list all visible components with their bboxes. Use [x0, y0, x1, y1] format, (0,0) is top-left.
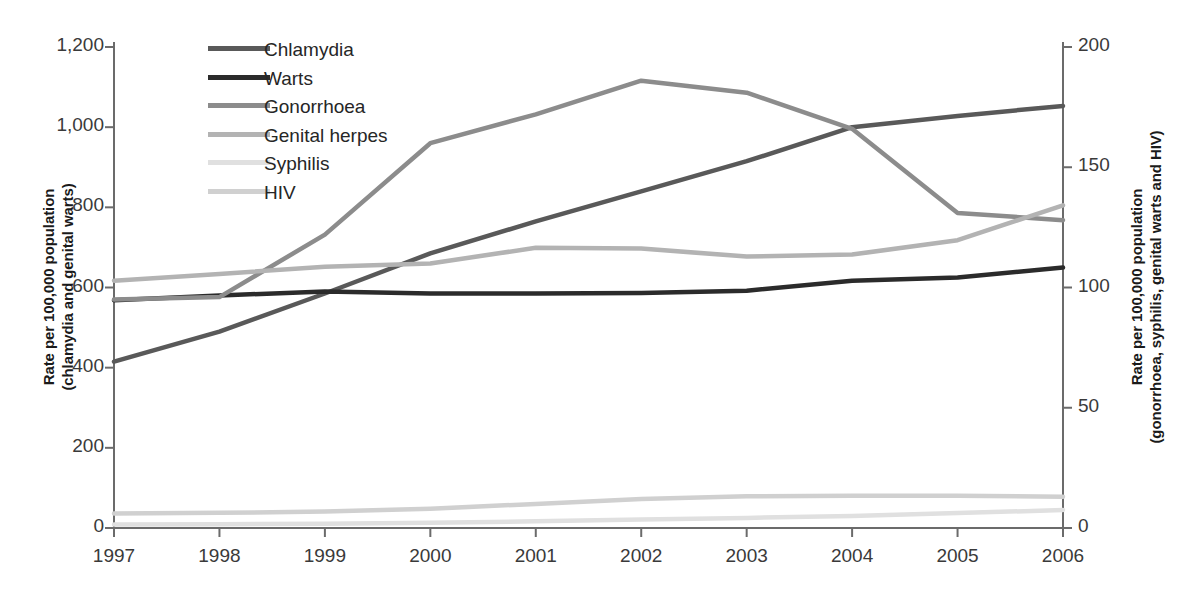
- right-axis-tick-label: 50: [1078, 395, 1138, 417]
- left-axis-tick-label: 400: [20, 355, 104, 377]
- x-axis-tick-label: 2000: [390, 545, 470, 567]
- x-axis-tick-label: 2006: [1023, 545, 1103, 567]
- right-axis-tick-label: 100: [1078, 275, 1138, 297]
- legend-swatch-genital-herpes: [208, 132, 270, 137]
- series-line-genital-herpes: [114, 205, 1063, 280]
- x-axis-tick-label: 2005: [918, 545, 998, 567]
- x-axis-tick-label: 2003: [707, 545, 787, 567]
- plot-area: [0, 0, 1187, 604]
- chart-container: Rate per 100,000 population (chlamydia a…: [0, 0, 1187, 604]
- left-axis-tick-label: 1,200: [20, 34, 104, 56]
- legend-label-warts: Warts: [264, 68, 313, 90]
- right-axis-tick-label: 0: [1078, 515, 1138, 537]
- x-axis-tick-label: 1998: [179, 545, 259, 567]
- right-axis-tick-label: 150: [1078, 154, 1138, 176]
- right-axis-tick-label: 200: [1078, 34, 1138, 56]
- legend-swatch-syphilis: [208, 160, 270, 165]
- left-axis-tick-label: 600: [20, 275, 104, 297]
- legend-label-genital-herpes: Genital herpes: [264, 125, 388, 147]
- legend-swatch-hiv: [208, 189, 270, 194]
- x-axis-tick-label: 2001: [496, 545, 576, 567]
- series-line-chlamydia: [114, 106, 1063, 362]
- x-axis-tick-label: 1997: [74, 545, 154, 567]
- x-axis-tick-label: 2004: [812, 545, 892, 567]
- left-axis-tick-label: 0: [20, 515, 104, 537]
- legend-swatch-gonorrhoea: [208, 103, 270, 108]
- legend-label-hiv: HIV: [264, 182, 296, 204]
- left-axis-tick-label: 800: [20, 194, 104, 216]
- legend-swatch-warts: [208, 75, 270, 80]
- legend-label-syphilis: Syphilis: [264, 153, 329, 175]
- left-axis-tick-label: 1,000: [20, 114, 104, 136]
- series-line-hiv: [114, 496, 1063, 514]
- x-axis-tick-label: 2002: [601, 545, 681, 567]
- legend-label-chlamydia: Chlamydia: [264, 39, 354, 61]
- x-axis-tick-label: 1999: [285, 545, 365, 567]
- legend-label-gonorrhoea: Gonorrhoea: [264, 96, 365, 118]
- legend-swatch-chlamydia: [208, 46, 270, 51]
- left-axis-tick-label: 200: [20, 435, 104, 457]
